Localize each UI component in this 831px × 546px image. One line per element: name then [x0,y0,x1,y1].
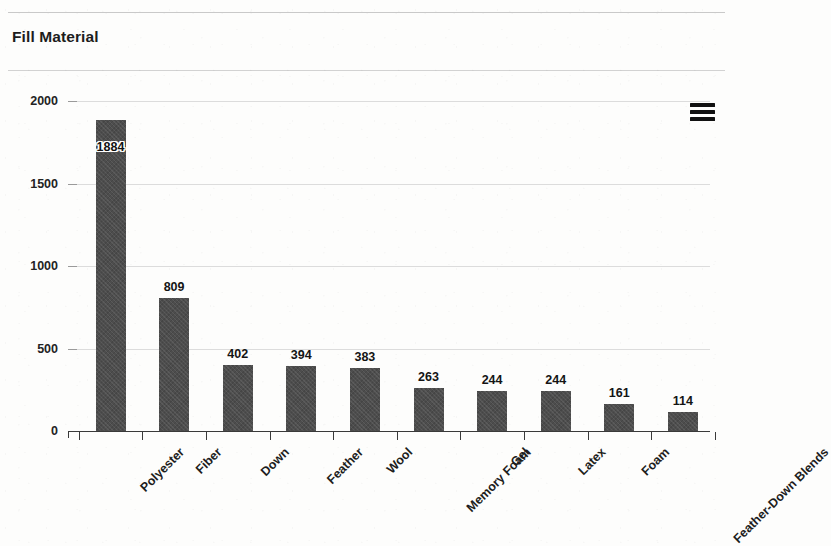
x-axis-category-label: Wool [384,445,415,476]
gridline [68,101,710,102]
x-axis-tick-mark [270,432,271,440]
bar[interactable] [477,391,507,431]
x-axis-tick-mark [588,432,589,440]
y-axis-tick-label: 2000 [14,94,58,108]
y-axis-line [68,431,69,438]
gridline [68,184,710,185]
x-axis-tick-mark [79,432,80,440]
bar[interactable] [286,366,316,431]
x-axis-tick-mark [460,432,461,440]
hamburger-menu-icon[interactable] [690,103,715,123]
x-axis-tick-mark [333,432,334,440]
x-axis-category-label: Down [258,445,292,479]
y-axis-tick-label: 0 [14,424,58,438]
bar[interactable] [159,298,189,431]
bar-value-label: 809 [164,280,185,294]
hamburger-bar-2 [690,110,715,114]
bar[interactable] [96,120,126,431]
x-axis-category-label: Latex [575,445,608,478]
y-axis-tick-label: 1000 [14,259,58,273]
bar[interactable] [541,391,571,431]
x-axis-category-label: Polyester [137,445,187,495]
bar[interactable] [414,388,444,431]
bar-value-label: 383 [354,350,375,364]
x-axis-category-label: Feather [325,445,367,487]
gridline [68,266,710,267]
bar[interactable] [223,365,253,431]
bar[interactable] [668,412,698,431]
bar-value-label: 1884 [97,140,125,154]
x-axis-category-label: Foam [639,445,672,478]
y-axis-tick-mark [68,184,77,185]
x-axis-tick-mark [397,432,398,440]
x-axis-tick-mark [651,432,652,440]
bar-value-label: 402 [227,347,248,361]
hamburger-bar-3 [690,117,715,121]
y-axis-tick-mark [68,266,77,267]
bar-value-label: 244 [482,373,503,387]
y-axis-tick-mark [68,101,77,102]
x-axis-line [68,431,710,432]
bar-value-label: 394 [291,348,312,362]
x-axis-tick-mark [206,432,207,440]
bar[interactable] [604,404,634,431]
x-axis-tick-mark [524,432,525,440]
x-axis-tick-mark [715,432,716,440]
x-axis-category-label: Feather-Down Blends [731,445,831,546]
x-axis-category-label: Fiber [193,445,225,477]
bar-value-label: 263 [418,370,439,384]
bar-value-label: 114 [673,394,693,408]
x-axis-tick-mark [142,432,143,440]
y-axis-tick-mark [68,349,77,350]
y-axis-tick-label: 500 [14,342,58,356]
y-axis-tick-label: 1500 [14,177,58,191]
hamburger-bar-1 [690,103,715,107]
bar-value-label: 161 [609,386,630,400]
bar[interactable] [350,368,380,431]
bar-value-label: 244 [545,373,566,387]
